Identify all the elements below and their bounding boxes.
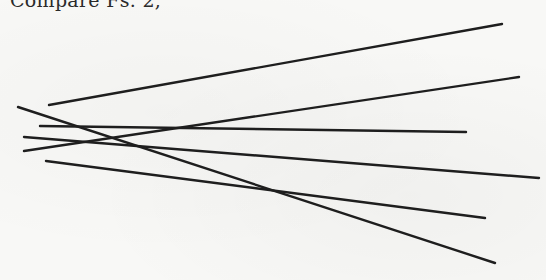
diagram-line-2 [24, 77, 519, 151]
diagram-line-1 [49, 24, 502, 105]
diagram-line-3 [40, 126, 466, 132]
diagram-line-4 [24, 137, 539, 178]
intersecting-lines-diagram [0, 0, 546, 280]
